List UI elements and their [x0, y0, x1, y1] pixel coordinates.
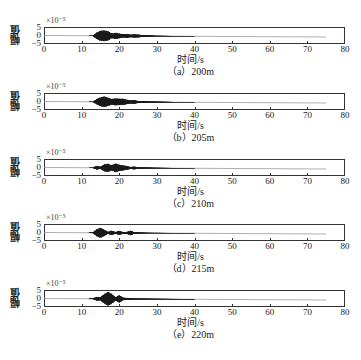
x-tick-label: 30	[147, 307, 167, 317]
x-tick-label: 50	[222, 307, 242, 317]
x-axis-label: 时间/s	[0, 186, 361, 197]
subplot-caption: （a）200m	[0, 66, 361, 77]
x-tick-label: 10	[72, 241, 92, 251]
x-tick-label: 80	[335, 241, 355, 251]
x-tick-label: 80	[335, 176, 355, 186]
x-axis-label: 时间/s	[0, 120, 361, 131]
x-tick-label: 50	[222, 176, 242, 186]
subplot-panel: 幅值×10⁻⁵50−501020304050607080时间/s（b）205m	[0, 78, 361, 144]
x-tick-label: 30	[147, 176, 167, 186]
x-tick-label: 20	[109, 176, 129, 186]
x-tick-label: 60	[260, 307, 280, 317]
x-tick-label: 10	[72, 307, 92, 317]
x-tick-label: 40	[185, 110, 205, 120]
x-tick-label: 10	[72, 176, 92, 186]
x-tick-label: 60	[260, 110, 280, 120]
x-tick-label: 50	[222, 44, 242, 54]
x-tick-label: 0	[34, 241, 54, 251]
subplot-caption: （b）205m	[0, 132, 361, 143]
subplot-caption: （e）220m	[0, 329, 361, 340]
x-tick-label: 50	[222, 110, 242, 120]
x-tick-label: 20	[109, 307, 129, 317]
x-tick-label: 60	[260, 44, 280, 54]
subplot-caption: （d）215m	[0, 263, 361, 274]
subplot-panel: 幅值×10⁻⁵50−501020304050607080时间/s（a）200m	[0, 12, 361, 78]
x-tick-label: 70	[297, 176, 317, 186]
x-tick-label: 70	[297, 241, 317, 251]
x-tick-label: 40	[185, 307, 205, 317]
subplot-panel: 幅值×10⁻⁵50−501020304050607080时间/s（c）210m	[0, 144, 361, 210]
x-tick-label: 0	[34, 307, 54, 317]
x-tick-label: 0	[34, 110, 54, 120]
x-tick-label: 40	[185, 176, 205, 186]
x-tick-label: 80	[335, 44, 355, 54]
x-tick-label: 30	[147, 241, 167, 251]
x-tick-label: 20	[109, 241, 129, 251]
x-tick-label: 10	[72, 110, 92, 120]
x-tick-label: 40	[185, 241, 205, 251]
x-tick-label: 30	[147, 110, 167, 120]
x-tick-label: 0	[34, 176, 54, 186]
x-tick-label: 10	[72, 44, 92, 54]
x-tick-label: 70	[297, 110, 317, 120]
x-tick-label: 70	[297, 307, 317, 317]
x-tick-label: 20	[109, 110, 129, 120]
x-tick-label: 0	[34, 44, 54, 54]
x-axis-label: 时间/s	[0, 251, 361, 262]
x-tick-label: 80	[335, 110, 355, 120]
x-tick-label: 70	[297, 44, 317, 54]
x-tick-label: 30	[147, 44, 167, 54]
x-axis-label: 时间/s	[0, 54, 361, 65]
x-tick-label: 40	[185, 44, 205, 54]
x-tick-label: 80	[335, 307, 355, 317]
subplot-caption: （c）210m	[0, 198, 361, 209]
x-tick-label: 60	[260, 241, 280, 251]
subplot-panel: 幅值×10⁻⁵50−501020304050607080时间/s（d）215m	[0, 209, 361, 275]
x-axis-label: 时间/s	[0, 317, 361, 328]
subplot-panel: 幅值×10⁻⁵50−501020304050607080时间/s（e）220m	[0, 275, 361, 341]
x-tick-label: 60	[260, 176, 280, 186]
x-tick-label: 20	[109, 44, 129, 54]
x-tick-label: 50	[222, 241, 242, 251]
